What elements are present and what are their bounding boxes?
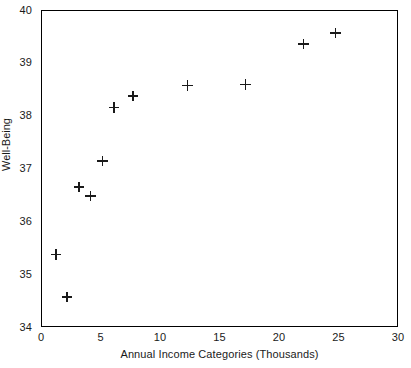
x-tick-label: 0 — [24, 331, 58, 343]
data-point-marker — [97, 156, 107, 166]
x-axis-title: Annual Income Categories (Thousands) — [41, 348, 398, 360]
data-point-marker — [330, 28, 340, 38]
data-point-marker — [74, 182, 84, 192]
data-point-marker — [109, 102, 119, 112]
data-point-marker — [298, 39, 308, 49]
data-points-layer — [42, 11, 397, 326]
data-point-marker — [240, 79, 250, 89]
x-tick-label: 15 — [203, 331, 237, 343]
x-tick-label: 30 — [381, 331, 411, 343]
x-tick-label: 25 — [322, 331, 356, 343]
y-tick-label: 37 — [20, 163, 32, 174]
y-tick-label: 38 — [20, 110, 32, 121]
data-point-marker — [62, 292, 72, 302]
data-point-marker — [182, 80, 192, 90]
data-point-marker — [51, 249, 61, 259]
data-point-marker — [85, 191, 95, 201]
x-axis-tick-labels: 051015202530 — [0, 331, 411, 345]
x-tick-label: 20 — [262, 331, 296, 343]
x-tick-label: 10 — [143, 331, 177, 343]
y-tick-label: 39 — [20, 57, 32, 68]
scatter-plot-figure: Well-Being 34353637383940 051015202530 A… — [0, 0, 411, 368]
y-tick-label: 40 — [20, 5, 32, 16]
y-axis-tick-labels: 34353637383940 — [0, 0, 37, 368]
plot-area — [41, 10, 398, 327]
data-point-marker — [128, 91, 138, 101]
x-tick-label: 5 — [84, 331, 118, 343]
y-tick-label: 35 — [20, 269, 32, 280]
y-tick-label: 36 — [20, 216, 32, 227]
